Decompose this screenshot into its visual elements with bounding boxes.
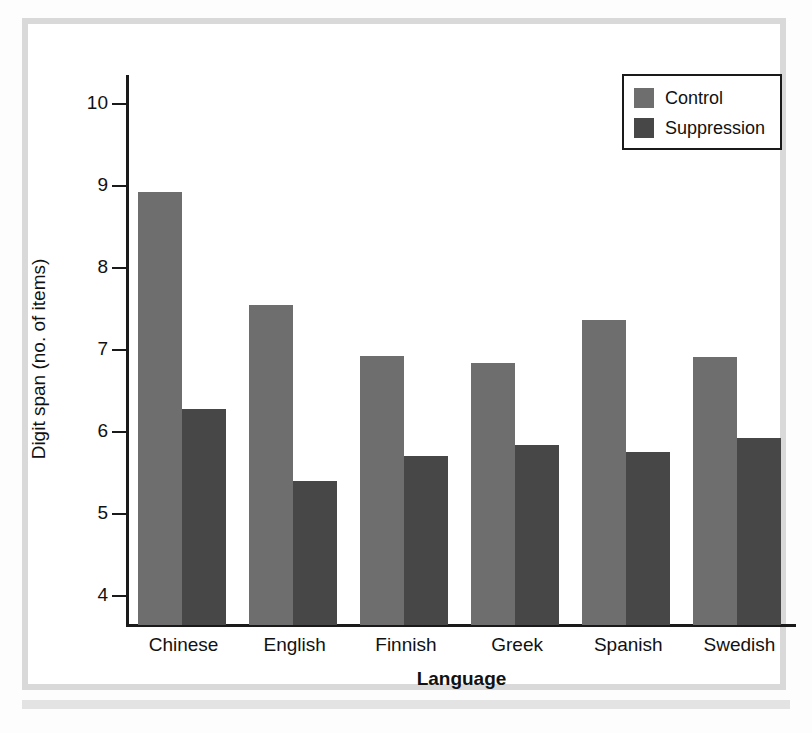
- bar-greek-control: [471, 363, 515, 625]
- bar-finnish-suppression: [404, 456, 448, 625]
- bar-chart: 10987654 Digit span (no. of items) Chine…: [0, 0, 812, 733]
- legend-label-suppression: Suppression: [665, 118, 765, 139]
- y-axis-tick-label-text: 6: [68, 420, 108, 442]
- bar-swedish-control: [693, 357, 737, 625]
- y-axis-tick-label-text: 7: [68, 338, 108, 360]
- y-axis-title: Digit span (no. of items): [28, 169, 50, 549]
- y-axis-tick: [112, 595, 126, 597]
- x-axis-label-greek: Greek: [462, 634, 573, 656]
- bar-chinese-control: [138, 192, 182, 625]
- chart-legend: Control Suppression: [622, 74, 782, 150]
- legend-item-control: Control: [634, 83, 770, 113]
- y-axis-tick-label-text: 4: [68, 584, 108, 606]
- bar-chinese-suppression: [182, 409, 226, 625]
- y-axis-tick: [112, 349, 126, 351]
- plot-area: [128, 75, 795, 625]
- y-axis-tick: [112, 431, 126, 433]
- bar-greek-suppression: [515, 445, 559, 625]
- x-axis-label-swedish: Swedish: [684, 634, 795, 656]
- bar-finnish-control: [360, 356, 404, 625]
- x-axis-label-finnish: Finnish: [350, 634, 461, 656]
- y-axis-tick: [112, 513, 126, 515]
- x-axis-label-spanish: Spanish: [573, 634, 684, 656]
- bar-english-control: [249, 305, 293, 625]
- bar-spanish-suppression: [626, 452, 670, 625]
- legend-label-control: Control: [665, 88, 723, 109]
- y-axis-tick: [112, 103, 126, 105]
- bar-english-suppression: [293, 481, 337, 625]
- y-axis-tick-label-text: 9: [68, 174, 108, 196]
- x-axis-label-english: English: [239, 634, 350, 656]
- x-axis-title: Language: [128, 668, 795, 690]
- y-axis-tick-label-text: 8: [68, 256, 108, 278]
- y-axis-tick: [112, 267, 126, 269]
- y-axis-tick-label-text: 10: [68, 92, 108, 114]
- legend-swatch-suppression-icon: [634, 118, 654, 138]
- bar-spanish-control: [582, 320, 626, 625]
- legend-item-suppression: Suppression: [634, 113, 770, 143]
- bar-swedish-suppression: [737, 438, 781, 625]
- legend-swatch-control-icon: [634, 88, 654, 108]
- y-axis-tick-label-text: 5: [68, 502, 108, 524]
- x-axis-label-chinese: Chinese: [128, 634, 239, 656]
- y-axis-tick: [112, 185, 126, 187]
